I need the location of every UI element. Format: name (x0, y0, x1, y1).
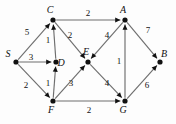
edge-weight-label: 2 (68, 30, 73, 40)
graph-node-e[interactable] (85, 59, 90, 64)
graph-node-a[interactable] (122, 17, 127, 22)
edge-weight-label: 4 (105, 78, 110, 88)
graph-edge (91, 22, 123, 58)
graph-node-s[interactable] (13, 59, 18, 64)
graph-edge (53, 67, 58, 98)
edge-weight-label: 1 (117, 56, 122, 66)
graph-node-label-f: F (47, 104, 55, 115)
graph-edge (19, 60, 51, 65)
edge-weight-label: 2 (87, 105, 92, 115)
graph-edge (127, 65, 157, 98)
graph-node-label-b: B (161, 48, 167, 59)
graph-edge (123, 25, 128, 98)
graph-node-label-s: S (6, 48, 11, 59)
graph-edge (51, 25, 56, 59)
edge-weight-label: 2 (86, 8, 91, 18)
edge-weight-label: 3 (29, 52, 34, 62)
graph-node-f[interactable] (50, 98, 55, 103)
nodes-layer (13, 17, 162, 103)
graph-node-label-g: G (119, 104, 126, 115)
graph-canvas: 53211224342176 SCDFEAGB (0, 0, 176, 124)
graph-edge (127, 22, 157, 58)
graph-node-label-c: C (47, 4, 54, 15)
edge-weight-label: 1 (46, 35, 51, 45)
graph-edge (56, 99, 120, 104)
edge-weight-label: 5 (25, 27, 30, 37)
edge-weight-label: 2 (24, 80, 29, 90)
graph-diagram: 53211224342176 SCDFEAGB (0, 0, 176, 124)
graph-edge (56, 18, 120, 23)
graph-node-b[interactable] (157, 59, 162, 64)
graph-node-c[interactable] (50, 17, 55, 22)
graph-node-label-d: D (56, 57, 65, 68)
graph-node-label-a: A (119, 4, 127, 15)
graph-edge (55, 22, 85, 58)
edge-weight-label: 1 (46, 78, 51, 88)
edge-weight-label: 7 (146, 25, 151, 35)
edge-weight-label: 4 (105, 30, 110, 40)
graph-node-label-e: E (82, 46, 89, 57)
edge-weight-label: 6 (145, 80, 150, 90)
edge-weight-label: 3 (69, 78, 74, 88)
graph-node-g[interactable] (122, 98, 127, 103)
